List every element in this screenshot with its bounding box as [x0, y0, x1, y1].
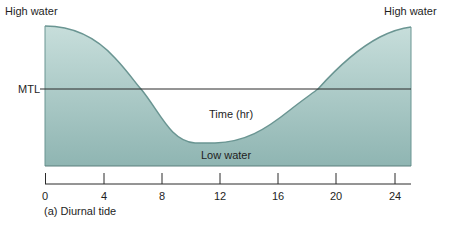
mtl-label: MTL: [18, 84, 40, 95]
tick-label: 12: [214, 191, 226, 202]
caption: (a) Diurnal tide: [44, 206, 116, 217]
high-water-right-label: High water: [384, 6, 437, 17]
tick-label: 16: [272, 191, 284, 202]
tick-label: 4: [101, 191, 107, 202]
axis-ticks: [46, 173, 396, 184]
tick-label: 20: [330, 191, 342, 202]
time-axis-label: Time (hr): [209, 109, 253, 120]
tick-label: 0: [42, 191, 48, 202]
tick-label: 8: [159, 191, 165, 202]
tick-label: 24: [389, 191, 401, 202]
low-water-label: Low water: [201, 150, 251, 161]
high-water-left-label: High water: [5, 6, 58, 17]
water-area: [45, 26, 411, 166]
